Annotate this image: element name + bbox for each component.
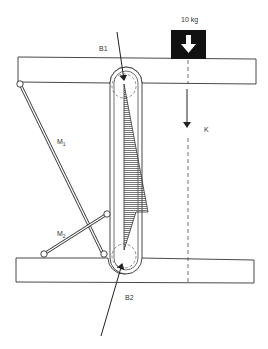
- label-b2: B2: [125, 294, 134, 301]
- label-b1: B1: [99, 45, 108, 52]
- mechanics-diagram: [0, 0, 268, 349]
- label-m1: M1: [57, 138, 66, 147]
- label-k: K: [204, 126, 209, 133]
- weight-block: [171, 30, 206, 59]
- pivot-m1-base: [101, 251, 107, 257]
- weight-label: 10 kg: [181, 16, 198, 23]
- pivot-top-left: [17, 81, 23, 87]
- label-m2: M2: [57, 230, 66, 239]
- label-m1-sub: 1: [63, 141, 66, 147]
- member-m2: [44, 214, 107, 254]
- line-of-action-k: [187, 60, 188, 282]
- label-m2-sub: 2: [63, 233, 66, 239]
- pivot-m2-link: [104, 211, 110, 217]
- pivot-m2-base: [41, 251, 47, 257]
- member-m1: [20, 84, 103, 254]
